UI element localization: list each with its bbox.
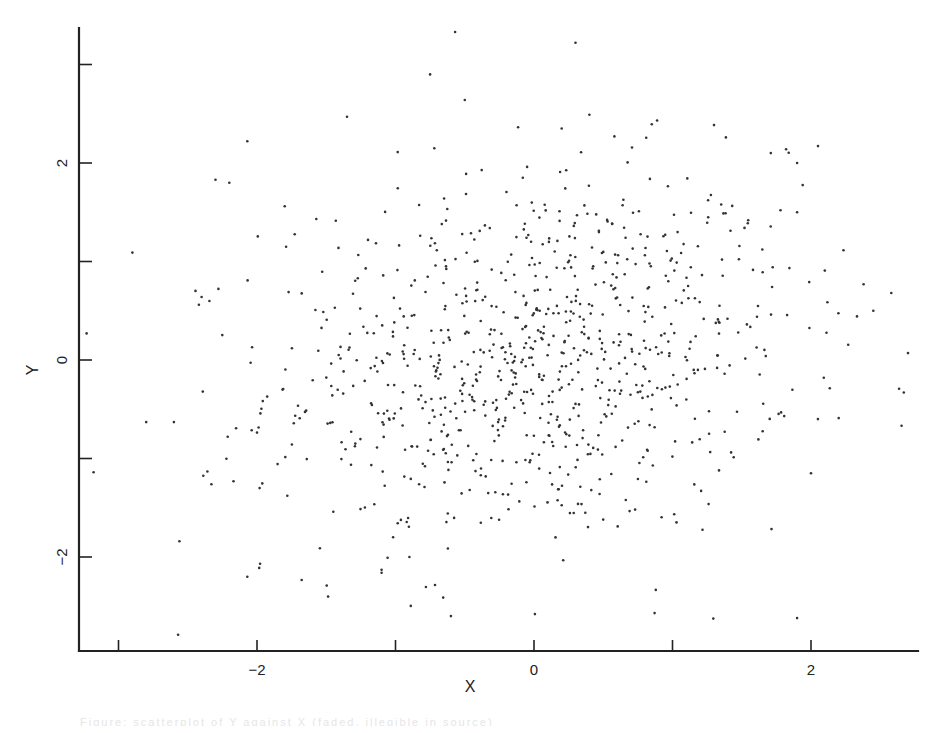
figure-caption: Figure: scatterplot of Y against X (fade… — [80, 716, 860, 726]
x-tick-label: 2 — [807, 661, 815, 678]
x-tick-label: −2 — [248, 661, 265, 678]
y-tick-label: −2 — [53, 548, 70, 565]
scatter-plot: −202 −202 X Y — [0, 0, 937, 733]
x-axis-label: X — [465, 678, 476, 695]
x-tick-label: 0 — [530, 661, 538, 678]
y-ticks: −202 — [53, 65, 92, 566]
y-tick-label: 2 — [53, 159, 70, 167]
y-tick-label: 0 — [53, 356, 70, 364]
data-points — [85, 31, 909, 636]
y-axis-label: Y — [24, 364, 41, 375]
axes — [79, 28, 918, 651]
x-ticks: −202 — [119, 640, 816, 678]
